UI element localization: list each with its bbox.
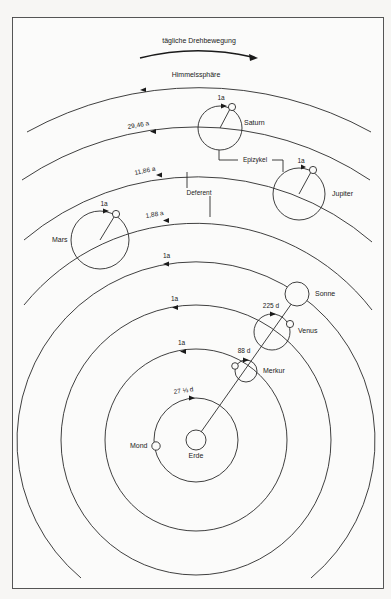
mars-planet	[112, 210, 119, 217]
venus-planet	[286, 320, 293, 327]
sun-label: Sonne	[315, 290, 335, 297]
mars-epicycle-period: 1a	[100, 200, 108, 207]
jupiter-planet	[309, 166, 316, 173]
deferent-label: Deferent	[187, 189, 212, 196]
venus-deferent-period: 1a	[171, 295, 179, 302]
sun-deferent-period: 1a	[163, 252, 171, 259]
earth-label: Erde	[189, 452, 204, 459]
daily-rotation-label: tägliche Drehbewegung	[162, 37, 236, 45]
earth-body	[186, 430, 206, 450]
celestial-sphere-label: Himmelssphäre	[172, 71, 221, 79]
venus-label: Venus	[298, 327, 318, 334]
mars-label: Mars	[52, 236, 68, 243]
mercury-deferent-period: 1a	[178, 339, 186, 346]
saturn-epicycle-period: 1a	[217, 94, 225, 101]
mercury-label: Merkur	[263, 367, 285, 374]
mercury-planet	[232, 363, 239, 370]
jupiter-epicycle-period: 1a	[297, 157, 305, 164]
saturn-label: Saturn	[244, 119, 265, 126]
venus-epicycle-period: 225 d	[263, 302, 280, 309]
diagram-frame	[13, 18, 384, 589]
ptolemaic-system-diagram: tägliche Drehbewegung Himmelssphäre 29,4…	[0, 0, 391, 599]
epicycle-label: Epizykel	[243, 156, 268, 164]
sun-body	[285, 282, 309, 306]
moon-body	[152, 442, 160, 450]
moon-label: Mond	[130, 442, 148, 449]
saturn-planet	[228, 103, 235, 110]
mercury-epicycle-period: 88 d	[238, 347, 251, 354]
jupiter-label: Jupiter	[332, 190, 354, 198]
